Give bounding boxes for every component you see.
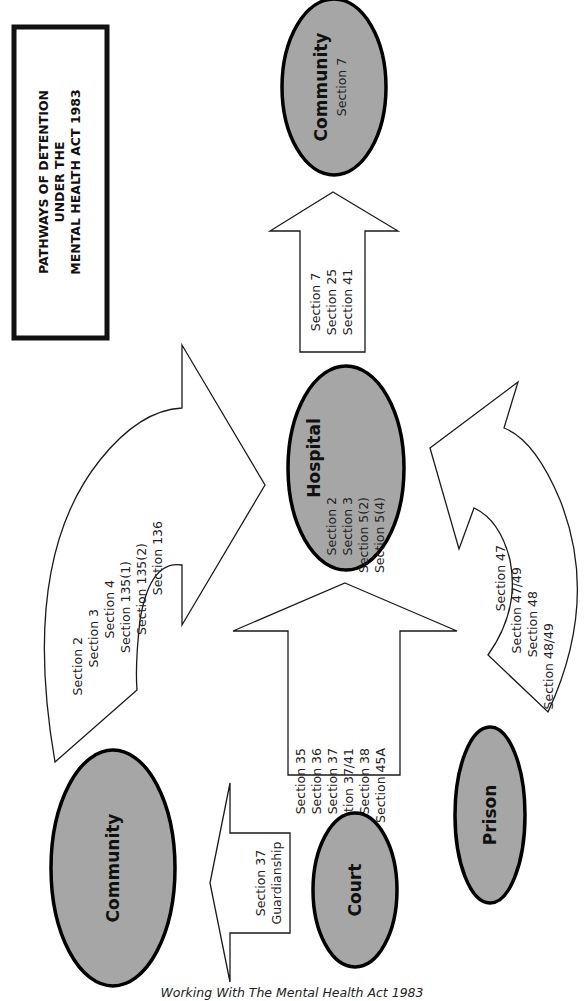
arrow-prison-to-hospital-section-1: Section 47 — [493, 545, 508, 611]
node-prison: Prison — [455, 727, 525, 903]
title-line-1: PATHWAYS OF DETENTION — [36, 90, 51, 274]
arrow-court-to-hospital-section-3: Section 37 — [325, 748, 340, 814]
node-community-bottom: Community — [51, 750, 175, 986]
arrow-court-to-hospital-section-6: Section 45A — [373, 748, 388, 823]
node-hospital-section-3: Section 5(2) — [356, 497, 371, 573]
arrow-community-to-hospital: Section 2 Section 3 Section 4 Section 13… — [44, 345, 265, 762]
arrow-court-to-hospital: Section 35 Section 36 Section 37 Section… — [233, 583, 457, 834]
arrow-prison-to-hospital-section-4: Section 48/49 — [541, 623, 556, 709]
arrow-community-to-hospital-section-2: Section 3 — [86, 609, 101, 667]
arrow-community-to-hospital-section-3: Section 4 — [102, 580, 117, 638]
figure-caption: Working With The Mental Health Act 1983 — [0, 985, 584, 1000]
arrow-court-to-hospital-section-5: Section 38 — [357, 748, 372, 814]
arrow-prison-to-hospital-section-2: Section 47/49 — [509, 567, 524, 653]
arrow-community-to-hospital-section-4: Section 135(1) — [118, 561, 133, 653]
arrow-court-to-community-section-2: Guardianship — [269, 841, 284, 924]
title-line-3: MENTAL HEALTH ACT 1983 — [68, 89, 83, 274]
arrow-hospital-to-community-section-3: Section 41 — [340, 269, 355, 335]
node-court-label: Court — [345, 864, 365, 917]
node-hospital-section-2: Section 3 — [340, 497, 355, 555]
arrow-hospital-to-community-section-1: Section 7 — [308, 273, 323, 331]
arrow-prison-to-hospital-section-3: Section 48 — [525, 591, 540, 657]
arrow-hospital-to-community: Section 7 Section 25 Section 41 — [270, 192, 398, 352]
pathways-diagram: PATHWAYS OF DETENTION UNDER THE MENTAL H… — [0, 0, 584, 1001]
arrow-hospital-to-community-section-2: Section 25 — [324, 269, 339, 335]
node-community-top: Community Section 7 — [282, 0, 386, 175]
arrow-community-to-hospital-section-1: Section 2 — [70, 637, 85, 695]
node-court: Court — [313, 813, 397, 967]
node-hospital-label: Hospital — [304, 418, 324, 497]
node-community-bottom-label: Community — [103, 814, 123, 923]
arrow-prison-to-hospital: Section 47 Section 47/49 Section 48 Sect… — [430, 382, 577, 712]
node-prison-label: Prison — [480, 785, 500, 846]
node-hospital-section-4: Section 5(4) — [372, 497, 387, 573]
node-hospital-section-1: Section 2 — [324, 497, 339, 555]
arrow-court-to-hospital-section-1: Section 35 — [293, 748, 308, 814]
arrow-community-to-hospital-section-5: Section 135(2) — [134, 543, 149, 635]
node-community-top-section: Section 7 — [334, 58, 349, 116]
title-line-2: UNDER THE — [52, 141, 67, 222]
arrow-community-to-hospital-section-6: Section 136 — [150, 521, 165, 595]
arrow-court-to-community: Section 37 Guardianship — [210, 783, 290, 982]
title-box: PATHWAYS OF DETENTION UNDER THE MENTAL H… — [14, 27, 107, 338]
arrow-court-to-community-section-1: Section 37 — [253, 850, 268, 916]
node-hospital: Hospital Section 2 Section 3 Section 5(2… — [288, 366, 404, 573]
node-community-top-label: Community — [311, 33, 331, 142]
arrow-court-to-hospital-section-2: Section 36 — [309, 748, 324, 814]
